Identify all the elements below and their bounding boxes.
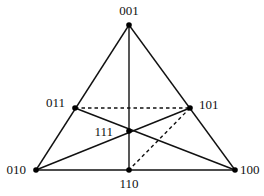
edge-011-100 — [75, 108, 235, 170]
edge-010-101 — [36, 108, 190, 170]
node-110 — [126, 167, 132, 173]
node-011 — [72, 105, 78, 111]
node-label-010: 010 — [7, 162, 27, 177]
node-010 — [33, 167, 39, 173]
node-label-111: 111 — [94, 124, 113, 139]
node-101 — [187, 105, 193, 111]
node-label-101: 101 — [199, 97, 219, 112]
node-001 — [126, 22, 132, 28]
node-label-001: 001 — [119, 3, 139, 18]
node-label-110: 110 — [119, 176, 138, 191]
diagram-canvas: 001010100011101110111 — [0, 0, 264, 196]
node-111 — [126, 128, 132, 134]
edge-101-110-dashed — [129, 108, 190, 170]
node-label-011: 011 — [46, 95, 65, 110]
node-label-100: 100 — [240, 162, 260, 177]
edge-001-100 — [129, 25, 235, 170]
fano-plane-diagram: 001010100011101110111 — [0, 0, 264, 196]
node-100 — [232, 167, 238, 173]
